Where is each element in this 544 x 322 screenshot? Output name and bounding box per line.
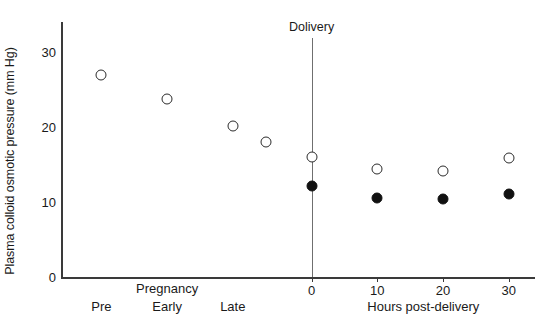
y-tick-label: 20 [28, 120, 56, 135]
category-label-pre: Pre [91, 299, 111, 314]
data-point-filled-circles [372, 192, 383, 203]
y-axis-title: Plasma colloid osmotic pressure (mm Hg) [0, 0, 20, 322]
data-point-open-circles [227, 120, 238, 131]
data-point-open-circles [372, 164, 383, 175]
x-axis-title: Hours post-delivery [367, 299, 479, 314]
category-label-late: Late [220, 299, 245, 314]
x-tick-label: 0 [308, 283, 315, 298]
x-tick-mark [312, 277, 313, 282]
x-tick-mark [443, 277, 444, 282]
data-point-open-circles [503, 152, 514, 163]
x-tick-label: 20 [436, 283, 450, 298]
data-point-filled-circles [306, 180, 317, 191]
delivery-marker-label: Dolivery [289, 20, 334, 34]
category-group-label-pregnancy: Pregnancy [136, 281, 198, 296]
x-axis-line [61, 277, 535, 279]
x-tick-mark [377, 277, 378, 282]
y-tick-label: 30 [28, 45, 56, 60]
x-tick-label: 10 [370, 283, 384, 298]
y-tick-label: 0 [28, 270, 56, 285]
category-label-early: Early [152, 299, 182, 314]
data-point-open-circles [260, 137, 271, 148]
x-tick-mark [509, 277, 510, 282]
data-point-open-circles [438, 165, 449, 176]
data-point-open-circles [306, 152, 317, 163]
data-point-open-circles [162, 94, 173, 105]
data-point-filled-circles [438, 194, 449, 205]
data-point-open-circles [96, 69, 107, 80]
y-tick-label: 10 [28, 195, 56, 210]
chart-figure: Plasma colloid osmotic pressure (mm Hg) … [0, 0, 544, 322]
data-point-filled-circles [503, 188, 514, 199]
x-tick-label: 30 [501, 283, 515, 298]
y-axis-line [61, 22, 63, 278]
